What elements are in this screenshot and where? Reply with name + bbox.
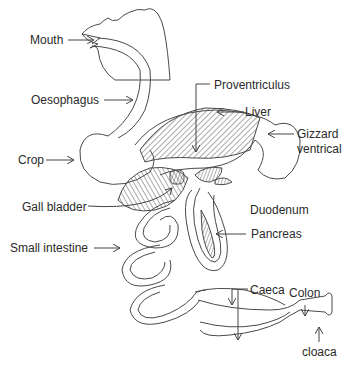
label-gizzard-line1: Gizzard: [297, 127, 338, 141]
duodenal-loop: [185, 188, 227, 271]
label-pancreas: Pancreas: [251, 227, 302, 241]
label-duodenum: Duodenum: [250, 203, 309, 217]
label-mouth: Mouth: [30, 33, 63, 47]
small-intestine-coils: [122, 200, 200, 324]
label-proventriculus: Proventriculus: [214, 78, 290, 92]
label-cloaca: cloaca: [302, 345, 337, 359]
digestive-system-diagram: Mouth Oesophagus Crop Proventriculus Liv…: [0, 0, 349, 366]
gizzard-hatched-right: [215, 178, 232, 185]
liver-lobe-upper: [140, 108, 260, 162]
gall-bladder-shape: [170, 170, 184, 184]
pancreas-shape: [201, 210, 215, 258]
oesophagus-tube: [92, 38, 150, 138]
label-liver: Liver: [245, 105, 271, 119]
label-caeca: Caeca: [250, 283, 285, 297]
label-colon: Colon: [289, 286, 320, 300]
diagram-drawing: [0, 0, 349, 366]
label-crop: Crop: [18, 153, 44, 167]
caeca-pointer-1: [232, 289, 248, 305]
label-gizzard-line2: ventrical: [297, 142, 342, 156]
label-oesophagus: Oesophagus: [31, 93, 99, 107]
label-gall-bladder: Gall bladder: [22, 200, 87, 214]
label-small-intestine: Small intestine: [10, 241, 88, 255]
